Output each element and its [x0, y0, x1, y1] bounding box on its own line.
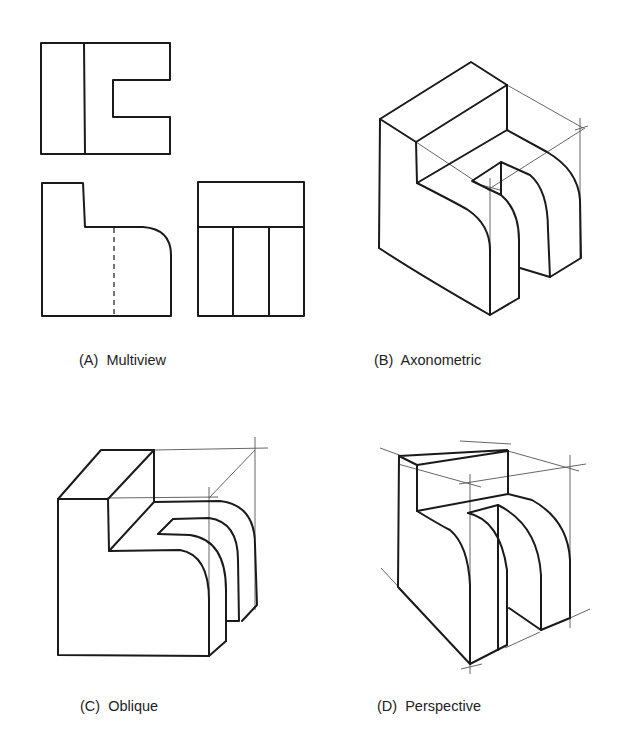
top-view — [41, 43, 170, 154]
caption-oblique: (C) Oblique — [80, 698, 158, 714]
panel-oblique — [58, 437, 268, 656]
front-view — [42, 183, 171, 316]
panel-multiview — [41, 43, 304, 316]
caption-perspective: (D) Perspective — [377, 698, 481, 714]
caption-multiview: (A) Multiview — [79, 352, 166, 368]
projection-types-figure — [0, 0, 620, 753]
panel-perspective — [380, 441, 590, 674]
caption-axonometric: (B) Axonometric — [374, 352, 481, 368]
side-view — [198, 182, 304, 316]
panel-axonometric — [379, 62, 588, 315]
